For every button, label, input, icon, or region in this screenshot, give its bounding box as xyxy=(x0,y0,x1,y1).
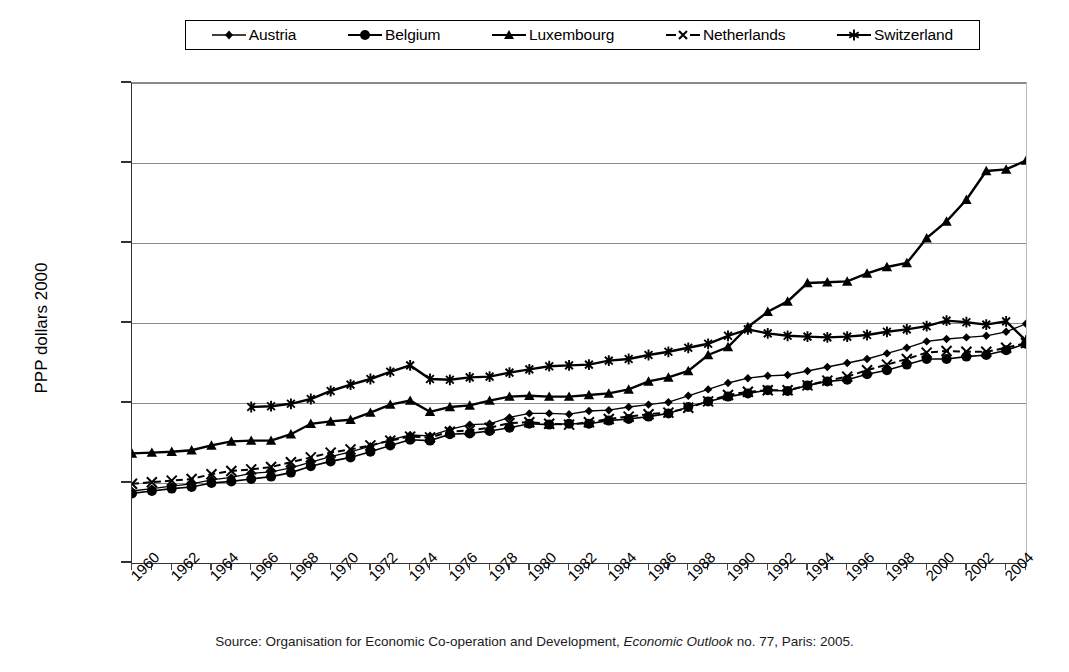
belgium-marker-icon xyxy=(348,28,382,42)
series-marker xyxy=(763,307,773,316)
series-marker xyxy=(644,400,652,408)
legend-label-netherlands: Netherlands xyxy=(703,26,785,44)
legend-item-switzerland: Switzerland xyxy=(837,26,953,44)
y-axis-tick-mark xyxy=(121,161,131,163)
y-axis-tick-mark xyxy=(121,561,131,563)
series-marker xyxy=(883,349,891,357)
y-axis-tick-mark xyxy=(121,241,131,243)
series-marker xyxy=(605,406,613,414)
series-marker xyxy=(724,379,732,387)
series-marker xyxy=(326,456,336,466)
data-series-layer xyxy=(132,83,1026,563)
series-marker xyxy=(206,478,216,488)
plot-area xyxy=(131,82,1027,564)
series-marker xyxy=(286,468,296,478)
series-marker xyxy=(604,416,614,426)
series-marker xyxy=(246,474,256,484)
series-marker xyxy=(525,409,533,417)
series-line xyxy=(132,161,1026,454)
series-marker xyxy=(585,407,593,415)
series-marker xyxy=(982,332,990,340)
series-marker xyxy=(803,367,811,375)
legend-label-belgium: Belgium xyxy=(385,26,440,44)
chart-legend: Austria Belgium Luxembourg Netherlands xyxy=(185,20,980,50)
source-italic-title: Economic Outlook xyxy=(623,634,733,649)
series-marker xyxy=(743,388,753,398)
series-marker xyxy=(565,410,573,418)
y-axis-tick-mark xyxy=(121,321,131,323)
series-marker xyxy=(903,344,911,352)
series-marker xyxy=(664,398,672,406)
chart-page: Austria Belgium Luxembourg Netherlands xyxy=(0,0,1069,672)
source-suffix: no. 77, Paris: 2005. xyxy=(733,634,854,649)
series-marker xyxy=(286,429,296,438)
legend-label-luxembourg: Luxembourg xyxy=(529,26,614,44)
series-marker xyxy=(704,385,712,393)
y-axis-tick-mark xyxy=(121,401,131,403)
switzerland-marker-icon xyxy=(837,28,871,42)
series-marker xyxy=(147,486,157,496)
source-prefix: Source: Organisation for Economic Co-ope… xyxy=(215,634,623,649)
legend-item-belgium: Belgium xyxy=(348,26,440,44)
legend-item-luxembourg: Luxembourg xyxy=(492,26,614,44)
series-marker xyxy=(962,333,970,341)
series-marker xyxy=(1022,320,1026,328)
netherlands-marker-icon xyxy=(666,28,700,42)
series-marker xyxy=(942,335,950,343)
series-marker xyxy=(1021,155,1026,164)
legend-label-switzerland: Switzerland xyxy=(874,26,953,44)
legend-item-austria: Austria xyxy=(212,26,297,44)
series-marker xyxy=(744,374,752,382)
series-marker xyxy=(1002,328,1010,336)
luxembourg-marker-icon xyxy=(492,28,526,42)
legend-item-netherlands: Netherlands xyxy=(666,26,785,44)
series-marker xyxy=(922,337,930,345)
legend-label-austria: Austria xyxy=(249,26,297,44)
series-marker xyxy=(843,359,851,367)
austria-marker-icon xyxy=(212,28,246,42)
series-marker xyxy=(306,461,316,471)
series-marker xyxy=(684,392,692,400)
series-marker xyxy=(783,371,791,379)
source-note: Source: Organisation for Economic Co-ope… xyxy=(0,634,1069,649)
y-axis-tick-mark xyxy=(121,81,131,83)
series-marker xyxy=(723,392,733,402)
series-marker xyxy=(764,372,772,380)
series-marker xyxy=(823,363,831,371)
y-axis-tick-mark xyxy=(121,481,131,483)
series-marker xyxy=(545,409,553,417)
series-marker xyxy=(584,419,594,429)
series-marker xyxy=(266,472,276,482)
series-marker xyxy=(524,419,534,429)
series-marker xyxy=(226,476,236,486)
series-marker xyxy=(624,403,632,411)
series-marker xyxy=(863,355,871,363)
y-axis-title: PPP dollars 2000 xyxy=(32,208,52,448)
series-netherlands xyxy=(132,338,1026,489)
